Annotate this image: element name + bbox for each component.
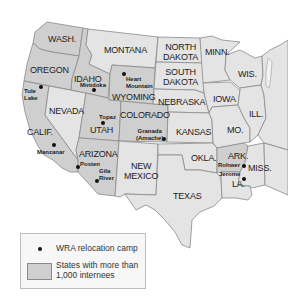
camp-dot-rohwer: [242, 164, 246, 168]
label-south-dakota: SOUTHDAKOTA: [163, 67, 198, 87]
label-colorado: COLORADO: [120, 111, 170, 120]
label-wyoming: WYOMING: [112, 93, 156, 102]
camp-label-granada: Granada (Amache): [136, 128, 163, 141]
camp-dot-jerome: [242, 177, 246, 181]
label-kansas: KANSAS: [176, 128, 211, 137]
label-okla: OKLA.: [191, 154, 217, 163]
camp-dot-tule-lake: [39, 85, 43, 89]
label-wis: WIS.: [238, 70, 257, 79]
legend-camp-label: WRA relocation camp: [56, 243, 138, 253]
camp-label-rohwer: Rohwer: [218, 162, 240, 169]
label-north-dakota: NORTHDAKOTA: [163, 42, 198, 62]
camp-line: Granada: [138, 128, 162, 134]
camp-label-topaz: Topaz: [99, 114, 116, 121]
camp-label-minidoka: Minidoka: [80, 82, 106, 89]
camp-label-gila-river: Gila River: [99, 168, 114, 181]
label-calif: CALIF.: [27, 128, 53, 137]
label-minn: MINN.: [205, 48, 230, 57]
label-montana: MONTANA: [104, 46, 147, 55]
label-ark: ARK.: [228, 152, 248, 161]
legend-shaded-label: States with more than 1,000 internees: [56, 261, 146, 280]
camp-line: Lake: [24, 95, 38, 101]
map-legend: WRA relocation camp States with more tha…: [20, 233, 146, 289]
label-arizona: ARIZONA: [79, 150, 118, 159]
label-iowa: IOWA: [213, 95, 236, 104]
camp-line: Heart: [126, 76, 141, 82]
camp-dot-manzanar: [52, 143, 56, 147]
camp-line: Tule: [24, 88, 36, 94]
label-nevada: NEVADA: [49, 107, 84, 116]
camp-label-posten: Posten: [80, 161, 100, 168]
camp-line: River: [99, 175, 114, 181]
label-nebraska: NEBRASKA: [158, 98, 205, 107]
camp-label-jerome: Jerome: [219, 171, 240, 178]
label-miss: MISS.: [248, 164, 272, 173]
label-texas: TEXAS: [173, 192, 202, 201]
label-la: LA.: [232, 180, 245, 189]
camp-line: Mountain: [126, 83, 153, 89]
camp-label-manzanar: Manzanar: [37, 149, 65, 156]
camp-dot-topaz: [101, 121, 105, 125]
camp-label-heart-mountain: Heart Mountain: [126, 76, 153, 89]
shaded-state-swatch-icon: [27, 263, 52, 280]
camp-dot-minidoka: [92, 88, 96, 92]
label-new-mexico: NEWMEXICO: [124, 161, 158, 181]
camp-line: Gila: [99, 168, 110, 174]
label-utah: UTAH: [90, 126, 113, 135]
camp-label-tule-lake: Tule Lake: [24, 88, 38, 101]
label-ill: ILL.: [249, 110, 263, 119]
camp-line: (Amache): [136, 135, 163, 141]
label-mo: MO.: [227, 126, 243, 135]
camp-dot-icon: [38, 247, 42, 251]
label-oregon: OREGON: [30, 66, 69, 75]
label-wash: WASH.: [48, 35, 76, 44]
